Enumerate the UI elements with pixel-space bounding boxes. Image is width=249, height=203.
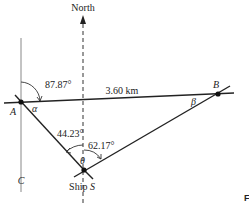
point-c-label: C: [18, 175, 25, 186]
angle-arc-north-ab: [21, 82, 40, 101]
ship-s-label: Ship S: [69, 181, 95, 192]
beta-label: β: [190, 96, 196, 107]
point-a-label: A: [9, 106, 17, 117]
angle-sb-label: 62.17°: [88, 140, 115, 151]
angle-sa-label: 44.23°: [57, 128, 84, 139]
navigation-diagram: North C 3.60 km A B Ship S 87.87° α β 44…: [0, 0, 249, 203]
distance-label: 3.60 km: [106, 85, 139, 96]
alpha-label: α: [32, 103, 38, 114]
corner-fragment: F: [244, 193, 249, 203]
point-a: [18, 99, 23, 104]
line-sb: [74, 86, 230, 177]
point-b-label: B: [213, 79, 219, 90]
north-label: North: [71, 2, 94, 13]
angle-arc-sa: [66, 145, 83, 152]
theta-label: θ: [80, 155, 85, 166]
angle-north-ab-label: 87.87°: [45, 79, 72, 90]
north-arrow-icon: [80, 15, 86, 24]
point-b: [215, 91, 220, 96]
point-s: [81, 167, 86, 172]
